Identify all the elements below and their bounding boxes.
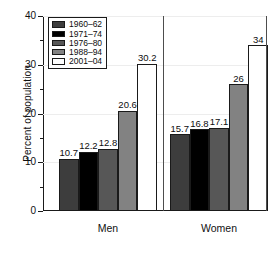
x-axis-label: Men	[98, 222, 118, 234]
legend-label: 1971–74	[69, 30, 102, 39]
bar-value-label: 26	[233, 74, 244, 84]
y-tick-major	[38, 114, 43, 115]
bar-value-label: 12.2	[79, 141, 98, 151]
bar-value-label: 12.8	[99, 138, 118, 148]
group-separator	[266, 16, 267, 211]
bar: 17.1	[209, 128, 229, 211]
x-axis-label: Women	[201, 222, 237, 234]
legend-label: 1976–80	[69, 39, 102, 48]
y-tick-major	[38, 65, 43, 66]
bar-chart: Percent of population 01020304010.712.21…	[0, 0, 276, 258]
legend-swatch	[52, 21, 65, 28]
legend-label: 1960–62	[69, 20, 102, 29]
bar-value-label: 20.6	[118, 100, 137, 110]
y-tick-major	[38, 16, 43, 17]
bar-value-label: 15.7	[171, 124, 190, 134]
y-tick-minor	[40, 187, 43, 188]
y-tick-label: 20	[25, 109, 36, 119]
bar: 20.6	[118, 111, 138, 211]
legend-item: 2001–04	[52, 57, 102, 66]
bar-value-label: 17.1	[210, 117, 229, 127]
y-tick-label: 10	[25, 157, 36, 167]
bar: 30.2	[137, 64, 157, 211]
legend-item: 1971–74	[52, 29, 102, 38]
legend-label: 2001–04	[69, 57, 102, 66]
bar: 10.7	[59, 159, 79, 211]
y-tick-label: 30	[25, 60, 36, 70]
bar: 16.8	[190, 129, 210, 211]
bar: 12.8	[98, 149, 118, 211]
y-tick-minor	[40, 40, 43, 41]
y-tick-minor	[40, 89, 43, 90]
legend-swatch	[52, 40, 65, 47]
y-tick-major	[38, 162, 43, 163]
bar-group-women: 15.716.817.12634Women	[170, 16, 268, 211]
bar-value-label: 34	[253, 35, 264, 45]
y-tick-major	[38, 211, 43, 212]
y-tick-label: 0	[30, 206, 36, 216]
y-tick-label: 40	[25, 11, 36, 21]
legend-swatch	[52, 31, 65, 38]
bar: 26	[229, 84, 249, 211]
bar-value-label: 16.8	[190, 119, 209, 129]
bar-value-label: 30.2	[138, 53, 157, 63]
group-separator	[163, 16, 164, 211]
legend-item: 1960–62	[52, 20, 102, 29]
legend-swatch	[52, 58, 65, 65]
legend-swatch	[52, 49, 65, 56]
y-tick-minor	[40, 138, 43, 139]
legend: 1960–621971–741976–801988–942001–04	[48, 17, 107, 69]
bar: 15.7	[170, 134, 190, 211]
bar: 12.2	[79, 152, 99, 211]
bar-value-label: 10.7	[60, 148, 79, 158]
